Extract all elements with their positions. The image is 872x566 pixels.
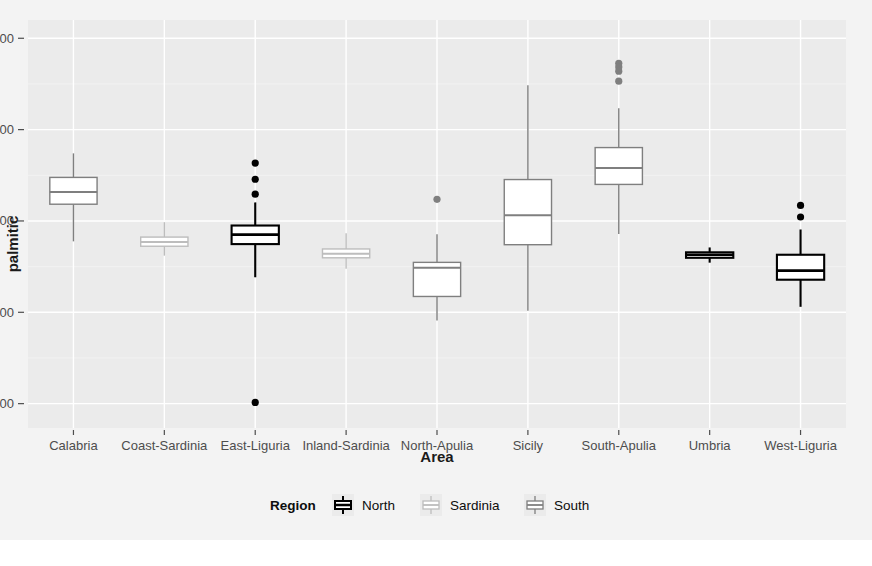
y-tick-label: 1800	[0, 31, 14, 46]
outlier-point	[615, 78, 622, 85]
legend-label: Sardinia	[450, 498, 500, 513]
plot-surface: 600900120015001800 CalabriaCoast-Sardini…	[0, 0, 872, 566]
x-tick-label: Sicily	[513, 438, 544, 453]
x-tick-label: Coast-Sardinia	[121, 438, 208, 453]
legend-label: North	[362, 498, 395, 513]
x-tick-label: Inland-Sardinia	[302, 438, 390, 453]
outlier-point	[797, 213, 804, 220]
y-tick-label: 900	[0, 305, 14, 320]
outlier-point	[433, 196, 440, 203]
boxplot-figure: 600900120015001800 CalabriaCoast-Sardini…	[0, 0, 872, 566]
y-tick-label: 1500	[0, 122, 14, 137]
outlier-point	[252, 191, 259, 198]
box-iqr	[504, 180, 551, 245]
y-axis-title: palmitic	[4, 216, 21, 273]
boxplot-key-sardinia[interactable]	[420, 494, 442, 516]
outlier-point	[615, 68, 622, 75]
x-tick-label: Calabria	[49, 438, 98, 453]
box-iqr	[595, 148, 642, 185]
outlier-point	[252, 176, 259, 183]
box-iqr	[777, 255, 824, 280]
outlier-point	[797, 202, 804, 209]
boxplot-key-north[interactable]	[332, 494, 354, 516]
legend-title: Region	[270, 498, 316, 513]
box-iqr	[50, 177, 97, 204]
x-tick-label: Umbria	[689, 438, 732, 453]
x-tick-label: East-Liguria	[221, 438, 291, 453]
legend-label: South	[554, 498, 589, 513]
x-axis-title: Area	[420, 448, 454, 465]
boxplot-key-south[interactable]	[524, 494, 546, 516]
x-tick-label: South-Apulia	[582, 438, 657, 453]
outlier-point	[252, 160, 259, 167]
y-tick-label: 600	[0, 396, 14, 411]
x-tick-label: West-Liguria	[764, 438, 838, 453]
outlier-point	[252, 399, 259, 406]
